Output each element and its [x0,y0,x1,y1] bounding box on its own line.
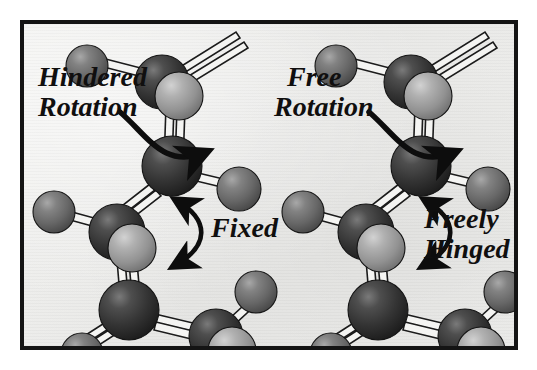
atom-light [155,72,203,120]
molecular-diagram: Hindered Rotation Fixed [24,24,514,346]
left-molecule: Hindered Rotation Fixed [33,32,279,346]
atom-medium [282,191,324,233]
atom-light [404,72,452,120]
label-hindered-rotation-line2: Rotation [37,91,138,122]
atom-medium [484,271,514,313]
atom-medium [217,167,261,211]
label-freely-hinged-line1: Freely [423,203,499,234]
label-free-rotation-line2: Rotation [273,91,374,122]
label-hindered-rotation-line1: Hindered [37,61,148,92]
atom-light [357,224,405,272]
atom-dark [348,280,408,340]
label-freely-hinged-line2: Hinged [423,233,511,264]
atom-light [108,224,156,272]
figure-canvas: Hindered Rotation Fixed [0,0,537,370]
label-free-rotation-line1: Free [286,61,341,92]
label-fixed: Fixed [210,212,279,243]
fixed-double-arrow [174,200,201,266]
atom-medium [235,271,277,313]
atom-dark [99,280,159,340]
figure-frame: Hindered Rotation Fixed [20,20,518,350]
atom-medium [33,191,75,233]
